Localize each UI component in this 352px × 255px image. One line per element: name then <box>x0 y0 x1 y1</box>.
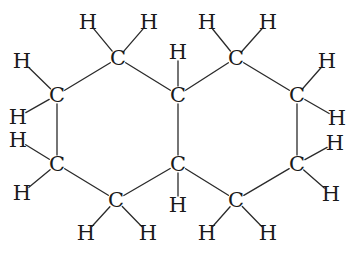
hydrogen-atom-H3a: H <box>9 128 27 152</box>
carbon-atom-C9: C <box>289 152 305 176</box>
hydrogen-atom-H10b: H <box>259 221 277 245</box>
bond-C3-H3b <box>29 170 50 188</box>
bond-C6-C7 <box>186 63 229 90</box>
bond-C9-H9a <box>305 147 327 159</box>
hydrogen-atom-H10a: H <box>198 221 216 245</box>
carbon-atom-C1: C <box>110 46 126 70</box>
bond-C2-H2a <box>29 67 51 88</box>
bond-C6-C1 <box>126 63 171 91</box>
carbon-atom-C10: C <box>228 188 244 212</box>
carbon-atom-C2: C <box>49 83 65 107</box>
hydrogen-atom-H1b: H <box>140 10 158 34</box>
carbon-atom-C3: C <box>49 152 65 176</box>
bond-C1-C2 <box>65 63 111 91</box>
hydrogen-atom-H1a: H <box>79 10 97 34</box>
decalin-structure-diagram: CCCCCCCCCCHHHHHHHHHHHHHHHHHH <box>0 0 352 255</box>
carbon-atom-C5: C <box>170 152 186 176</box>
hydrogen-atom-H9b: H <box>322 182 340 206</box>
hydrogen-atom-H5: H <box>169 193 187 217</box>
bond-C7-C8 <box>244 63 290 91</box>
bond-C10-C5 <box>186 169 229 196</box>
bond-C8-H8b <box>305 100 329 114</box>
carbon-atom-C8: C <box>289 83 305 107</box>
hydrogen-atom-H8b: H <box>328 106 346 130</box>
bond-C3-C4 <box>65 169 109 196</box>
hydrogen-atom-H2a: H <box>13 49 31 73</box>
hydrogen-atom-H2b: H <box>9 105 27 129</box>
carbon-atom-C6: C <box>170 83 186 107</box>
carbon-atom-C4: C <box>108 188 124 212</box>
hydrogen-atom-H7a: H <box>198 10 216 34</box>
hydrogen-atom-H7b: H <box>259 10 277 34</box>
hydrogen-atom-H8a: H <box>318 49 336 73</box>
hydrogen-atom-H4a: H <box>77 221 95 245</box>
hydrogen-atom-H4b: H <box>139 221 157 245</box>
bond-C3-H3a <box>26 145 50 160</box>
hydrogen-atom-H6: H <box>169 40 187 64</box>
bond-C2-H2b <box>26 99 49 112</box>
hydrogen-atom-H9a: H <box>326 131 344 155</box>
hydrogen-atom-H3b: H <box>13 181 31 205</box>
bond-C9-C10 <box>244 169 289 196</box>
carbon-atom-C7: C <box>228 46 244 70</box>
bond-C4-C5 <box>124 169 170 196</box>
